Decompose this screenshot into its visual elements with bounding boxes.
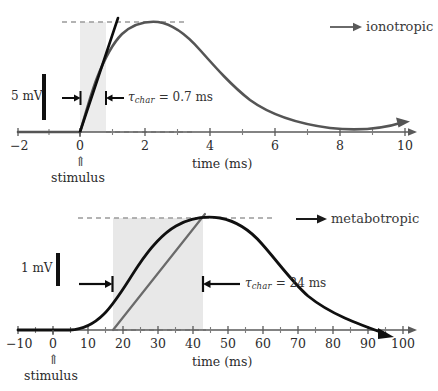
- legend-label-metabotropic: metabotropic: [331, 212, 419, 225]
- x-axis-title-metabotropic: time (ms): [192, 356, 252, 369]
- scale-bar-label-5mv: 5 mV: [11, 90, 43, 102]
- chart-panel-metabotropic: 1 mV τchar = 24 ms metabotropic −10 0 10…: [0, 196, 438, 391]
- x-tick-label-11: 100: [391, 338, 415, 351]
- tau-annotation-ionotropic: τchar = 0.7 ms: [128, 91, 213, 105]
- x-tick-label-4: 6: [271, 140, 279, 153]
- x-tick-label-2: 2: [141, 140, 149, 153]
- ionotropic-curve-arrowhead-icon: [396, 118, 410, 128]
- tau-unit: ms: [309, 276, 327, 290]
- tau-symbol: τ: [128, 90, 135, 104]
- x-tick-label-0: −2: [10, 140, 28, 153]
- legend-arrow-icon-ionotropic: [330, 23, 362, 31]
- tau-subscript: char: [252, 281, 272, 291]
- tau-subscript: char: [135, 95, 155, 105]
- scale-bar-label-1mv: 1 mV: [21, 262, 53, 274]
- x-tick-label-8: 70: [290, 338, 306, 351]
- x-tick-label-0: −10: [6, 338, 32, 351]
- ionotropic-response-curve: [18, 22, 404, 132]
- x-tick-label-1: 0: [76, 140, 84, 153]
- tau-unit: ms: [195, 90, 213, 104]
- tau-equals-sign: =: [159, 90, 169, 104]
- scale-bar-1mv: [56, 253, 60, 286]
- tau-value: 0.7: [173, 90, 192, 104]
- tau-value: 24: [290, 276, 305, 290]
- legend-arrow-icon-metabotropic: [296, 215, 327, 224]
- tau-annotation-metabotropic: τchar = 24 ms: [245, 277, 326, 291]
- legend-label-ionotropic: ionotropic: [366, 20, 433, 33]
- x-tick-label-6: 50: [220, 338, 236, 351]
- stimulus-label: stimulus: [24, 370, 78, 383]
- x-tick-label-3: 20: [115, 338, 131, 351]
- x-tick-label-1: 0: [49, 338, 57, 351]
- x-tick-label-7: 60: [255, 338, 271, 351]
- x-tick-label-9: 80: [325, 338, 341, 351]
- tau-symbol: τ: [245, 276, 252, 290]
- x-tick-label-5: 8: [336, 140, 344, 153]
- onset-delimiter-arrow: [62, 91, 81, 105]
- chart-panel-ionotropic: 5 mV τchar = 0.7 ms ionotropic −2 0 2 4 …: [0, 0, 438, 196]
- tau-measurement-arrow: [203, 276, 240, 292]
- x-axis-arrowhead-icon: [408, 128, 417, 136]
- x-tick-label-6: 10: [397, 140, 413, 153]
- stimulus-label: stimulus: [51, 172, 105, 185]
- onset-delimiter-arrow: [79, 276, 113, 292]
- tau-equals-sign: =: [276, 276, 286, 290]
- x-axis-arrowhead-icon: [408, 326, 417, 334]
- tau-measurement-arrow: [106, 91, 124, 105]
- stimulus-arrow-icon: ⇑: [48, 353, 59, 366]
- x-tick-label-10: 90: [360, 338, 376, 351]
- x-axis-title-ionotropic: time (ms): [192, 158, 252, 171]
- x-tick-label-3: 4: [206, 140, 214, 153]
- x-tick-label-5: 40: [185, 338, 201, 351]
- x-tick-label-2: 10: [80, 338, 96, 351]
- x-tick-label-4: 30: [150, 338, 166, 351]
- stimulus-arrow-icon: ⇑: [75, 155, 86, 168]
